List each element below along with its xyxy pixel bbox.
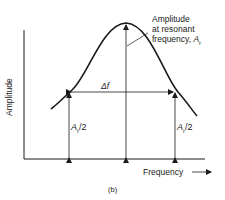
y-axis-label: Amplitude	[4, 78, 14, 116]
right-half-amplitude-label: Ar/2	[177, 122, 193, 136]
peak-annotation-line3: frequency,	[152, 34, 193, 44]
peak-annotation-line3-wrap: frequency, Ar	[152, 34, 201, 48]
peak-subscript: r	[199, 40, 201, 46]
peak-annotation-line2: at resonant	[152, 24, 201, 34]
peak-annotation-line1: Amplitude	[152, 14, 201, 24]
x-axis-label: Frequency	[143, 167, 183, 177]
left-half-amplitude-label: Ar/2	[71, 122, 87, 136]
right-half-suffix: /2	[185, 122, 193, 132]
figure-caption: (b)	[108, 185, 117, 195]
left-half-suffix: /2	[79, 122, 87, 132]
bandwidth-label: Δf	[101, 81, 109, 91]
annotation-leader-line	[127, 33, 148, 46]
peak-annotation: Amplitude at resonant frequency, Ar	[152, 14, 201, 48]
